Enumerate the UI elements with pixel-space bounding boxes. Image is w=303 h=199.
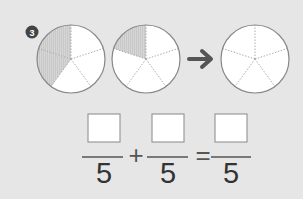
denominator-2: 5 bbox=[160, 157, 176, 189]
numerator-input-2[interactable] bbox=[152, 114, 184, 142]
circle-1 bbox=[37, 25, 105, 93]
equals-sign: = bbox=[195, 140, 210, 170]
denominator-result: 5 bbox=[223, 157, 239, 189]
plus-sign: + bbox=[128, 140, 143, 170]
problem-number: 3 bbox=[29, 28, 34, 38]
fraction-equation: 5 + 5 = 5 bbox=[82, 114, 251, 189]
circle-3 bbox=[221, 25, 289, 93]
circle-2 bbox=[112, 25, 180, 93]
numerator-input-1[interactable] bbox=[88, 114, 120, 142]
arrow-right-icon bbox=[189, 51, 211, 67]
problem-number-badge: 3 bbox=[26, 26, 39, 39]
numerator-input-result[interactable] bbox=[215, 114, 247, 142]
denominator-1: 5 bbox=[96, 157, 112, 189]
fraction-diagram: 3 bbox=[0, 0, 303, 199]
